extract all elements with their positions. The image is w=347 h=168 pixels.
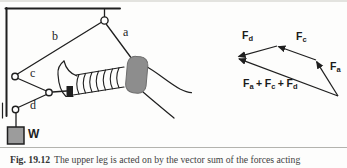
leg-in-cast xyxy=(58,61,192,118)
rope-a-label: a xyxy=(123,26,128,38)
rope-foot xyxy=(53,91,67,92)
weight-block xyxy=(8,127,25,144)
pulley-wall-upper xyxy=(12,73,18,79)
textbook-figure-panel: a b c d W Fd Fc Fa Fa+Fc+Fd Fig. 19.12Th… xyxy=(0,0,347,168)
vector-fc xyxy=(278,47,316,61)
pulley-wall-lower xyxy=(12,106,18,112)
vector-fd xyxy=(239,46,277,57)
vector-sum-label: Fa+Fc+Fd xyxy=(243,78,297,91)
bandage-wraps xyxy=(77,68,119,94)
figure-caption-text: The upper leg is acted on by the vector … xyxy=(54,154,300,165)
pulley-junction xyxy=(46,89,52,95)
figure-caption: Fig. 19.12The upper leg is acted on by t… xyxy=(10,152,345,167)
vector-fd-label: Fd xyxy=(242,30,253,43)
rope-d-label: d xyxy=(30,99,36,111)
rope-c-label: c xyxy=(30,67,35,79)
rope-c xyxy=(18,79,47,92)
caption-separator-line xyxy=(0,147,347,148)
pulley-top xyxy=(101,17,108,24)
vector-fa-label: Fa xyxy=(330,61,341,74)
thigh-bottom-outline xyxy=(143,92,174,118)
rope-b-label: b xyxy=(52,30,58,42)
traction-cuff xyxy=(125,56,149,94)
foot-top xyxy=(64,61,77,76)
vector-fc-label: Fc xyxy=(296,31,307,44)
figure-caption-number: Fig. 19.12 xyxy=(10,154,50,165)
thigh-top-outline xyxy=(147,67,192,93)
figure-canvas xyxy=(0,0,347,147)
foot-attachment-bar xyxy=(67,86,74,97)
weight-label: W xyxy=(28,128,39,140)
